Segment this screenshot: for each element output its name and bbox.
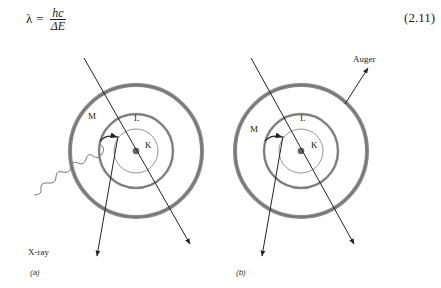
shell-label-l: L: [300, 113, 306, 123]
shell-label-m: M: [250, 124, 258, 134]
auger-electron-path: [345, 68, 368, 104]
shell-label-l: L: [134, 113, 140, 123]
shell-label-k: K: [311, 140, 318, 150]
panel-b: M L K Auger (b): [235, 54, 376, 277]
shell-label-k: K: [145, 140, 152, 150]
shell-label-m: M: [88, 111, 96, 121]
xray-label: X-ray: [28, 247, 49, 257]
atomic-shell-figure: M L K X-ray (a) M L K Auger (b): [0, 0, 441, 288]
panel-a: M L K X-ray (a): [28, 58, 202, 277]
auger-label: Auger: [353, 54, 376, 64]
panel-a-caption: (a): [30, 268, 40, 277]
panel-b-caption: (b): [236, 268, 246, 277]
